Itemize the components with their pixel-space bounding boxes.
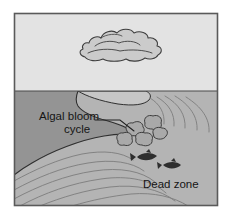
illustration-root: Algal bloom cycle Dead zone <box>0 0 232 220</box>
algae-clump <box>153 127 168 139</box>
algae-clump <box>117 132 133 145</box>
scene-svg: Algal bloom cycle Dead zone <box>0 0 232 220</box>
sky-panel <box>14 13 218 92</box>
algal-bloom-label-line1: Algal bloom <box>39 110 99 122</box>
algal-bloom-label-line2: cycle <box>64 123 90 135</box>
algae-clump <box>136 132 153 145</box>
water-panel: Algal bloom cycle Dead zone <box>14 91 218 206</box>
dead-zone-label: Dead zone <box>143 178 199 190</box>
